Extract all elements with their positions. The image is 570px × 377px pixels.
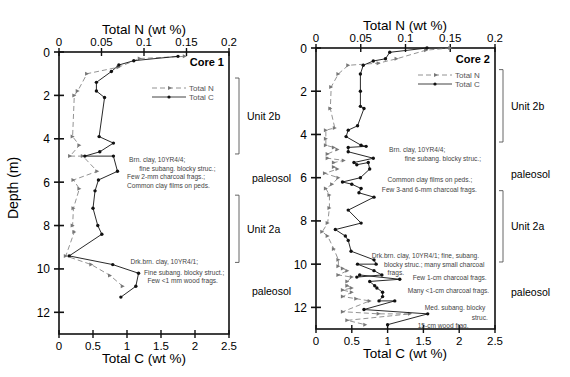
data-point xyxy=(372,59,375,62)
data-point xyxy=(425,46,428,49)
data-point xyxy=(393,299,396,302)
data-point xyxy=(95,81,98,84)
data-point xyxy=(323,171,327,175)
data-point xyxy=(398,278,401,281)
annotation-text: Brn. clay, 10YR4/4; xyxy=(129,156,185,164)
paleosol-label: paleosol xyxy=(511,286,550,298)
data-point xyxy=(332,145,336,149)
data-point xyxy=(359,105,362,108)
data-point xyxy=(345,318,349,322)
data-point xyxy=(324,187,328,191)
data-point xyxy=(341,310,345,314)
data-point xyxy=(380,273,383,276)
data-point xyxy=(320,230,324,234)
annotation-text: Few 2-mm charcoal frags.; xyxy=(127,173,205,181)
data-point xyxy=(345,269,349,273)
data-point xyxy=(110,70,113,73)
legend-circle-marker-icon xyxy=(167,95,170,98)
core-2-panel: 024681012 00.050.10.150.2 00.511.522.5 T… xyxy=(294,18,550,361)
data-point xyxy=(103,96,106,99)
y-axis-label: Depth (m) xyxy=(5,157,21,219)
data-point xyxy=(372,269,375,272)
core-1-unit-labels: Unit 2bpaleosolUnit 2apaleosol xyxy=(235,78,291,297)
data-point xyxy=(359,72,362,75)
data-point xyxy=(368,280,371,283)
annotation-text: Drk.brn. clay, 10YR4/1; xyxy=(130,258,198,266)
data-point xyxy=(362,107,365,110)
data-point xyxy=(96,224,99,227)
data-point xyxy=(332,247,336,251)
data-point xyxy=(329,85,333,89)
data-point xyxy=(336,176,340,180)
core-2-top-ticks: 00.050.10.150.2 xyxy=(313,32,503,52)
annotation-text: 15-cm wood frag. xyxy=(418,322,469,330)
data-point xyxy=(426,312,429,315)
data-point xyxy=(359,221,362,224)
top-tick-label: 0 xyxy=(313,32,319,44)
bottom-tick-label: 2.5 xyxy=(487,335,503,347)
data-point xyxy=(349,249,352,252)
data-point xyxy=(132,59,135,62)
data-point xyxy=(121,284,125,288)
data-point xyxy=(76,89,80,93)
core-1-top-axis-label: Total N (wt %) xyxy=(102,22,186,37)
data-point xyxy=(64,254,68,258)
data-point xyxy=(372,157,375,160)
y-tick-label: 12 xyxy=(37,306,51,320)
data-point xyxy=(335,148,339,152)
y-tick-label: 0 xyxy=(43,46,50,60)
paleosol-label: paleosol xyxy=(511,168,550,180)
core-2-title: Core 2 xyxy=(456,53,490,65)
legend-circle-marker-icon xyxy=(433,82,436,85)
data-point xyxy=(112,154,115,157)
top-tick-label: 0.1 xyxy=(398,32,414,44)
y-tick-label: 4 xyxy=(300,128,307,142)
data-point xyxy=(377,61,381,65)
core-1-y-ticks: 024681012 xyxy=(37,46,64,320)
data-point xyxy=(332,161,336,165)
data-point xyxy=(372,195,375,198)
y-tick-label: 0 xyxy=(300,42,307,56)
top-tick-label: 0.05 xyxy=(90,36,112,48)
data-point xyxy=(336,273,340,277)
y-tick-label: 4 xyxy=(43,132,50,146)
data-point xyxy=(111,263,114,266)
data-point xyxy=(112,141,115,144)
data-point xyxy=(326,234,330,238)
data-point xyxy=(356,262,359,265)
data-point xyxy=(359,187,362,190)
data-point xyxy=(95,169,99,173)
data-point xyxy=(355,275,358,278)
unit-bracket xyxy=(499,70,503,142)
data-point xyxy=(341,266,345,270)
data-point xyxy=(356,124,359,127)
core-1-bottom-axis-label: Total C (wt %) xyxy=(102,351,186,366)
data-point xyxy=(384,57,387,60)
core-1-panel: 024681012 00.050.10.150.2 00.511.522.5 T… xyxy=(37,22,291,366)
data-point xyxy=(386,323,389,326)
top-tick-label: 0.2 xyxy=(487,32,503,44)
paleosol-label: paleosol xyxy=(252,285,291,297)
annotation-text: Few <1 mm wood frags. xyxy=(147,277,218,285)
data-point xyxy=(91,206,94,209)
data-point xyxy=(334,228,337,231)
unit-bracket xyxy=(235,78,239,154)
core-2-legend: Total N Total C xyxy=(418,71,480,89)
data-point xyxy=(359,144,362,147)
data-point xyxy=(355,163,358,166)
data-point xyxy=(395,57,399,61)
data-point xyxy=(98,150,101,153)
core-1-title: Core 1 xyxy=(190,56,224,68)
unit-bracket xyxy=(499,191,503,262)
top-tick-label: 0.1 xyxy=(136,36,152,48)
data-point xyxy=(363,323,367,327)
unit-bracket xyxy=(235,195,239,262)
data-point xyxy=(347,146,350,149)
bottom-tick-label: 0.5 xyxy=(344,335,360,347)
bottom-tick-label: 0.5 xyxy=(85,340,101,352)
paleosol-label: paleosol xyxy=(252,172,291,184)
y-tick-label: 6 xyxy=(300,171,307,185)
core-2-legend-total-n: Total N xyxy=(455,71,480,80)
y-tick-label: 2 xyxy=(43,89,50,103)
annotation-text: fine subang. blocky struc.; xyxy=(139,165,215,173)
